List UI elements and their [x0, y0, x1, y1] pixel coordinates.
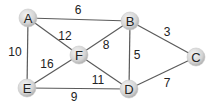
edge-weight-f-d: 11	[92, 73, 105, 87]
node-b: B	[121, 12, 139, 30]
node-label: B	[126, 14, 135, 29]
node-e: E	[18, 79, 36, 97]
edge-weight-a-b: 6	[75, 3, 82, 17]
node-a: A	[19, 9, 37, 27]
edge-weight-a-e: 10	[8, 45, 22, 59]
node-label: D	[124, 82, 133, 97]
edge-weight-e-d: 9	[71, 90, 78, 104]
edge-weight-f-e: 16	[40, 57, 54, 71]
edge-b-d	[129, 21, 130, 89]
edge-weight-b-d: 5	[134, 48, 141, 62]
edge-a-b	[28, 18, 130, 21]
node-d: D	[120, 80, 138, 98]
edges-layer	[27, 18, 196, 89]
edge-weight-a-f: 12	[58, 29, 72, 43]
node-label: E	[23, 81, 32, 96]
node-label: C	[191, 50, 200, 65]
edge-weight-f-b: 8	[103, 38, 110, 52]
edge-e-d	[27, 88, 129, 89]
edge-weight-d-c: 7	[164, 76, 171, 90]
node-f: F	[70, 46, 88, 64]
nodes-layer: ABCDEF	[18, 9, 205, 98]
node-c: C	[187, 48, 205, 66]
graph-diagram: 61210168511937 ABCDEF	[0, 0, 215, 108]
node-label: A	[24, 11, 33, 26]
edge-weight-b-c: 3	[164, 25, 171, 39]
node-label: F	[75, 48, 83, 63]
edge-a-e	[27, 18, 28, 88]
